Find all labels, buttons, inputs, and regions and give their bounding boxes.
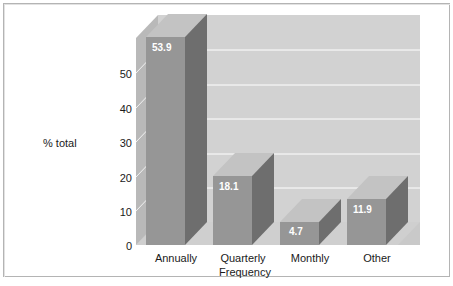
bar-quarterly[interactable] xyxy=(213,153,274,245)
y-tick-label-30: 30 xyxy=(98,137,132,149)
x-category-label-other: Other xyxy=(341,252,413,264)
x-axis-title: Frequency xyxy=(200,266,290,278)
y-tick-label-40: 40 xyxy=(98,103,132,115)
x-category-label-quarterly: Quarterly xyxy=(207,252,279,264)
value-label-other: 11.9 xyxy=(353,204,372,215)
y-tick-label-50: 50 xyxy=(98,68,132,80)
x-category-label-annually: Annually xyxy=(140,252,212,264)
value-label-monthly: 4.7 xyxy=(289,226,303,237)
y-tick-label-0: 0 xyxy=(98,240,132,252)
bar-annually-side xyxy=(185,14,207,245)
bar-annually-front xyxy=(146,37,185,245)
y-tick-label-10: 10 xyxy=(98,206,132,218)
y-axis-title: % total xyxy=(43,137,77,149)
value-label-quarterly: 18.1 xyxy=(219,181,238,192)
screenshot-root: 0 10 20 30 40 50 % total Annually Quarte… xyxy=(0,0,453,286)
y-tick-label-20: 20 xyxy=(98,172,132,184)
value-label-annually: 53.9 xyxy=(152,42,171,53)
x-category-label-monthly: Monthly xyxy=(274,252,346,264)
